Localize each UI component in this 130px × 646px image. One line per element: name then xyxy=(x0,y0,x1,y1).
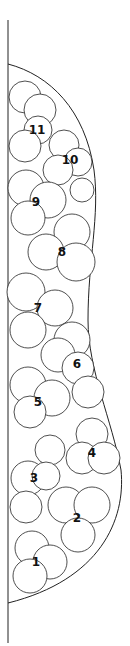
region-11-shape xyxy=(9,81,56,162)
region-2-label: 2 xyxy=(73,511,81,525)
diagram-canvas xyxy=(0,0,130,646)
region-3-label: 3 xyxy=(30,471,38,485)
region-8-label: 8 xyxy=(58,245,66,259)
region-10-label: 10 xyxy=(62,153,79,167)
region-4-label: 4 xyxy=(88,446,96,460)
region-6-label: 6 xyxy=(73,357,81,371)
region-7-label: 7 xyxy=(34,301,42,315)
region-5-label: 5 xyxy=(34,395,42,409)
region-9-label: 9 xyxy=(32,195,40,209)
region-11-label: 11 xyxy=(29,123,46,137)
region-1-label: 1 xyxy=(32,555,40,569)
